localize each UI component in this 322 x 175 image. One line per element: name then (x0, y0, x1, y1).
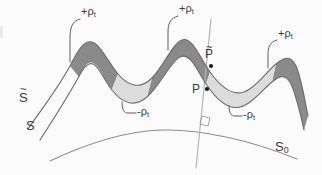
region-positive-rho-left (70, 42, 118, 89)
region-positive-rho-right (272, 58, 308, 130)
label-rho-positive-left: +ρt (81, 6, 96, 18)
label-surface-s: S (26, 119, 35, 132)
label-rho-negative-left: -ρt (137, 106, 149, 118)
right-angle-marker (200, 116, 210, 126)
label-rho-positive-mid: +ρt (179, 3, 194, 15)
point-marker-p (205, 87, 209, 91)
label-surface-s0: S0 (275, 140, 289, 155)
diagram-canvas: +ρt +ρt +ρt -ρt -ρt S S S0 P P (0, 0, 322, 175)
label-rho-negative-right: -ρt (243, 109, 255, 121)
label-point-p: P (192, 83, 200, 95)
region-negative-rho-right (206, 64, 276, 107)
label-point-p-bar: P (205, 48, 213, 60)
label-surface-s-tilde: S (19, 91, 28, 104)
label-rho-positive-right: +ρt (278, 28, 293, 40)
point-marker-p-bar (209, 64, 213, 68)
region-positive-rho-mid (147, 40, 210, 97)
shaded-regions (70, 40, 308, 130)
curve-s0 (50, 130, 297, 161)
diagram-svg (0, 0, 322, 175)
leader-line-rho-negative-left (122, 102, 136, 113)
